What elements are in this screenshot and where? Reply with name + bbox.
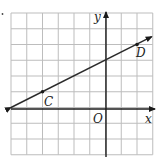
line-cd [11,37,152,108]
point-c-label: C [44,95,53,109]
x-axis-label: x [145,112,152,126]
grid-lines [11,13,153,155]
y-axis-label: y [93,10,101,24]
coordinate-plane-figure: y x O C D [0,0,159,161]
point-c [41,90,45,94]
origin-label: O [93,112,103,126]
stray-dot [2,13,4,15]
point-d-label: D [135,46,146,60]
